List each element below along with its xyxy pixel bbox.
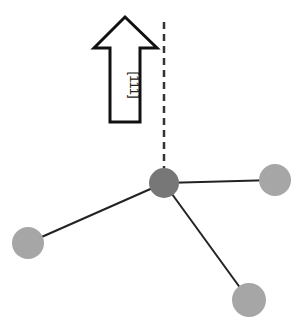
neighbor-atom-left [12, 227, 44, 259]
tetrahedral-diagram: [111] [0, 0, 299, 330]
direction-arrow-up [94, 17, 157, 122]
bond-bottom-right [164, 183, 249, 300]
neighbor-atom-bottom-right [232, 283, 266, 317]
bond-right [164, 180, 275, 183]
bond-left [28, 183, 164, 243]
arrow-label: [111] [127, 72, 142, 99]
central-atom [149, 168, 179, 198]
neighbor-atom-right [259, 164, 291, 196]
